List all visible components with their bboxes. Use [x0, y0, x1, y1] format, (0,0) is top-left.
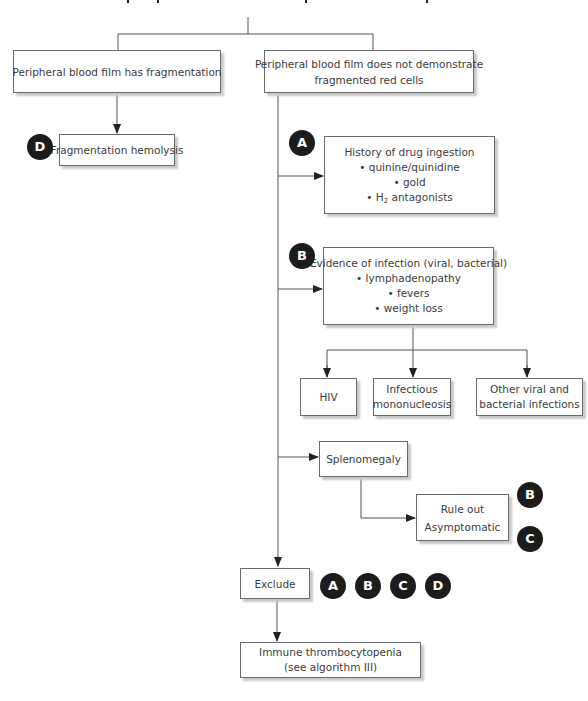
bullet-icon: •: [393, 176, 399, 188]
bullet-item: • quinine/quinidine: [359, 160, 460, 175]
node-hiv: HIV: [300, 378, 357, 416]
node-itp: Immune thrombocytopenia (see algorithm I…: [240, 642, 421, 678]
flowchart: Peripheral blood film has fragmentation …: [0, 0, 588, 701]
bullet-item: • weight loss: [374, 301, 443, 316]
node-text: Splenomegaly: [326, 451, 401, 467]
node-mono: Infectious mononucleosis: [373, 378, 451, 416]
node-text: (see algorithm III): [284, 660, 377, 675]
badge-exclude-c: C: [390, 573, 416, 599]
node-fragmentation-hemolysis: Fragmentation hemolysis: [59, 134, 175, 166]
node-text: fragmented red cells: [314, 72, 423, 88]
badge-b-infection: B: [289, 243, 315, 269]
node-text: Rule out: [441, 500, 484, 518]
bullet-item: • gold: [393, 175, 425, 190]
badge-a-drug: A: [289, 130, 315, 156]
node-infection: Evidence of infection (viral, bacterial)…: [323, 247, 494, 325]
node-fragmentation-no: Peripheral blood film does not demonstra…: [264, 50, 474, 93]
node-text: Exclude: [254, 576, 295, 592]
badge-exclude-b: B: [355, 573, 381, 599]
badge-c-rule-out: C: [517, 526, 543, 552]
badge-b-rule-out: B: [517, 482, 543, 508]
node-text: Peripheral blood film does not demonstra…: [255, 56, 483, 72]
bullet-icon: •: [387, 287, 393, 299]
badge-d-fragmentation: D: [27, 134, 53, 160]
node-text: mononucleosis: [373, 397, 451, 412]
bullet-item: • fevers: [387, 286, 429, 301]
badge-exclude-a: A: [320, 573, 346, 599]
node-text: Asymptomatic: [425, 518, 501, 536]
bullet-item: • H2 antagonists: [366, 190, 453, 205]
arrow-to-rule-out: [361, 477, 415, 518]
connector-top-split: [118, 34, 373, 50]
node-title: History of drug ingestion: [344, 145, 474, 160]
node-text: Infectious: [386, 382, 437, 397]
node-fragmentation-yes: Peripheral blood film has fragmentation: [13, 50, 221, 93]
node-text: HIV: [319, 389, 337, 405]
node-text: Other viral and: [490, 382, 569, 397]
badge-exclude-d: D: [425, 573, 451, 599]
bullet-icon: •: [356, 272, 362, 284]
node-title: Evidence of infection (viral, bacterial): [310, 256, 507, 271]
node-text: bacterial infections: [479, 397, 579, 412]
bullet-icon: •: [374, 302, 380, 314]
node-text: Immune thrombocytopenia: [259, 645, 402, 660]
node-splenomegaly: Splenomegaly: [319, 441, 408, 477]
bullet-item: • lymphadenopathy: [356, 271, 461, 286]
bullet-icon: •: [359, 161, 365, 173]
node-text: Fragmentation hemolysis: [51, 142, 184, 158]
connector-infection-split: [327, 350, 527, 377]
node-other-infections: Other viral and bacterial infections: [476, 378, 583, 416]
bullet-icon: •: [366, 191, 372, 203]
node-drug-history: History of drug ingestion • quinine/quin…: [324, 136, 495, 214]
node-exclude: Exclude: [240, 568, 310, 599]
node-rule-out: Rule out Asymptomatic: [416, 494, 509, 541]
node-text: Peripheral blood film has fragmentation: [13, 64, 222, 80]
